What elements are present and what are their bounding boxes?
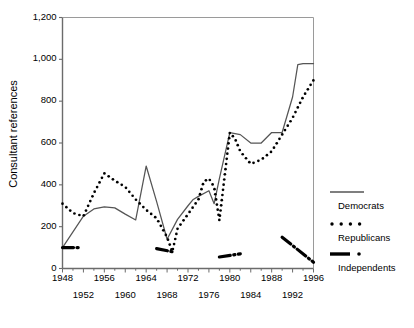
series-line-independents — [63, 237, 314, 262]
legend-label-republicans: Republicans — [338, 232, 390, 243]
series-dot — [165, 234, 168, 237]
series-dot — [281, 133, 284, 136]
x-tick-label: 1976 — [189, 289, 229, 300]
y-tick-label: 800 — [20, 94, 57, 105]
series-dot — [284, 129, 287, 132]
series-dot — [89, 200, 92, 203]
series-layer — [61, 64, 315, 263]
chart-container: Consultant references 02004006008001,000… — [0, 0, 414, 328]
series-dot — [301, 97, 304, 100]
series-dot — [174, 238, 177, 241]
legend-dot — [340, 222, 343, 225]
series-dot — [125, 186, 128, 189]
y-tick-label: 0 — [20, 262, 57, 273]
series-dot — [61, 202, 64, 205]
series-dot — [234, 139, 237, 142]
series-dot — [225, 158, 228, 161]
series-dot — [188, 211, 191, 214]
series-dot — [176, 227, 179, 230]
series-dot — [216, 203, 219, 206]
series-dot — [82, 214, 85, 217]
x-tick-label: 1980 — [210, 272, 250, 283]
x-tick-label: 1992 — [273, 289, 313, 300]
series-dot — [91, 195, 94, 198]
series-dot — [179, 223, 182, 226]
series-dot — [273, 146, 276, 149]
legend-dot — [349, 222, 352, 225]
series-dot — [257, 160, 260, 163]
y-tick-label: 1,200 — [20, 11, 57, 22]
series-dot — [248, 161, 251, 164]
series-dot — [131, 194, 134, 197]
legend-swatch-independents — [330, 252, 361, 256]
series-dot — [69, 209, 72, 212]
series-dot — [216, 208, 219, 211]
series-dot — [213, 188, 216, 191]
legend-dot — [358, 222, 361, 225]
legend-label-democrats: Democrats — [338, 200, 384, 211]
series-dot — [219, 209, 222, 212]
series-dot — [73, 212, 76, 215]
series-dot — [120, 183, 123, 186]
series-dot — [138, 202, 141, 205]
series-dot — [223, 178, 226, 181]
series-dot — [220, 204, 223, 207]
series-dot — [222, 188, 225, 191]
series-dot — [194, 202, 197, 205]
series-dot — [200, 188, 203, 191]
y-tick-label: 400 — [20, 178, 57, 189]
series-dot — [309, 84, 312, 87]
series-dot — [205, 179, 208, 182]
series-dot — [65, 206, 68, 209]
series-dot — [228, 132, 231, 135]
x-tick-label: 1984 — [231, 289, 271, 300]
series-dot — [78, 214, 81, 217]
series-dot — [226, 152, 229, 155]
series-dot — [219, 214, 222, 217]
series-dot — [307, 88, 310, 91]
series-dot — [162, 229, 165, 232]
series-dot — [222, 183, 225, 186]
series-dot — [215, 198, 218, 201]
series-dot — [135, 198, 138, 201]
series-dot — [304, 92, 307, 95]
series-dot — [146, 209, 149, 212]
series-dot — [312, 79, 315, 82]
series-dot — [221, 194, 224, 197]
series-dot — [150, 213, 153, 216]
x-tick-label: 1960 — [105, 289, 145, 300]
series-dot — [199, 193, 202, 196]
series-dot — [228, 137, 231, 140]
series-dot — [185, 215, 188, 218]
x-tick-label: 1988 — [252, 272, 292, 283]
series-dot — [214, 193, 217, 196]
series-dot — [292, 115, 295, 118]
series-dot — [227, 142, 230, 145]
series-dot — [85, 209, 88, 212]
series-dot — [96, 186, 99, 189]
series-dot — [93, 190, 96, 193]
x-tick-label: 1948 — [43, 272, 83, 283]
series-dot — [224, 168, 227, 171]
series-dot — [262, 157, 265, 160]
x-tick-label: 1996 — [294, 272, 334, 283]
y-tick-label: 1,000 — [20, 52, 57, 63]
series-dot — [231, 135, 234, 138]
x-tick-label: 1964 — [126, 272, 166, 283]
series-dot — [286, 124, 289, 127]
x-tick-label: 1956 — [84, 272, 124, 283]
series-dot — [116, 181, 119, 184]
series-dot — [202, 183, 205, 186]
axes-layer — [59, 18, 314, 273]
series-segment — [282, 237, 313, 262]
series-dot — [101, 177, 104, 180]
series-dot — [299, 101, 302, 104]
series-segment — [219, 254, 240, 257]
legend-swatch-republicans — [330, 222, 361, 225]
series-dot — [236, 144, 239, 147]
series-segment — [157, 249, 173, 252]
series-dot — [211, 183, 214, 186]
series-dot — [157, 220, 160, 223]
legend-label-independents: Independents — [338, 262, 396, 273]
legend-dot — [330, 222, 333, 225]
